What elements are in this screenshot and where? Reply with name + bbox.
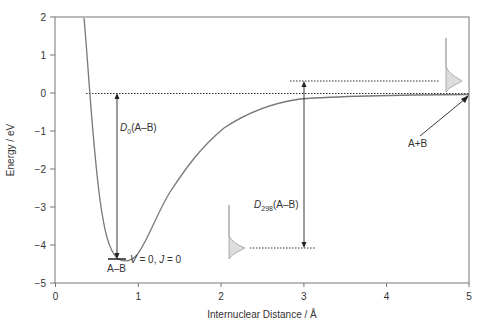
svg-text:3: 3 (301, 291, 307, 302)
svg-text:1: 1 (136, 291, 142, 302)
svg-text:4: 4 (384, 291, 390, 302)
svg-text:−2: −2 (35, 164, 47, 175)
y-axis-title: Energy / eV (5, 124, 16, 177)
svg-text:−5: −5 (35, 278, 47, 289)
a-plus-b-label: A+B (408, 138, 428, 149)
svg-text:5: 5 (466, 291, 472, 302)
svg-text:0: 0 (40, 88, 46, 99)
svg-text:2: 2 (218, 291, 224, 302)
svg-text:−3: −3 (35, 202, 47, 213)
potential-energy-chart: 2 1 0 −1 −2 −3 −4 −5 0 1 2 3 4 5 Internu… (0, 0, 486, 330)
svg-text:−4: −4 (35, 240, 47, 251)
y-axis (50, 17, 55, 283)
svg-text:2: 2 (40, 12, 46, 23)
d298-label: D298(A–B) (254, 199, 298, 212)
svg-text:1: 1 (40, 50, 46, 61)
svg-text:−1: −1 (35, 126, 47, 137)
y-tick-labels: 2 1 0 −1 −2 −3 −4 −5 (35, 12, 47, 289)
x-axis (56, 283, 470, 287)
svg-text:0: 0 (53, 291, 59, 302)
x-tick-labels: 0 1 2 3 4 5 (53, 291, 473, 302)
d0-arrow (115, 93, 120, 259)
d0-label: D0(A–B) (120, 122, 157, 135)
distribution-lower (229, 205, 245, 259)
distribution-upper (446, 38, 462, 92)
d298-arrow (302, 81, 307, 248)
vj-label: V = 0, J = 0 (130, 254, 182, 265)
reference-lines (86, 81, 469, 248)
ab-molecule-label: A–B (107, 263, 126, 274)
ab-pointer-arrow (420, 95, 469, 136)
x-axis-title: Internuclear Distance / Å (207, 308, 317, 320)
